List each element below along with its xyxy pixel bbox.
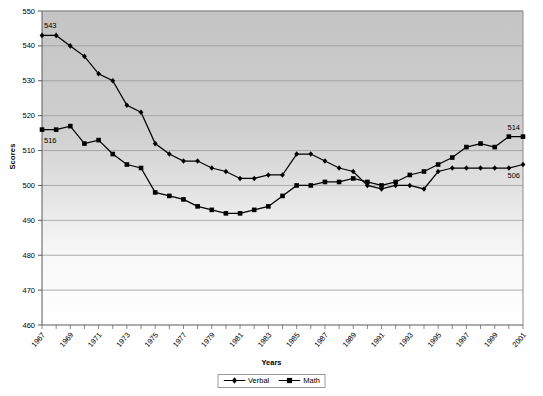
sat-scores-line-chart: 460470480490500510520530540550 196719691… xyxy=(0,0,543,396)
marker-square-math xyxy=(139,166,144,171)
x-tick-label: 1975 xyxy=(143,331,161,350)
x-tick-label: 1987 xyxy=(312,331,330,350)
legend-marker-square-icon xyxy=(278,376,300,385)
marker-square-math xyxy=(507,134,512,139)
marker-square-math xyxy=(422,169,427,174)
x-tick-label: 1999 xyxy=(482,331,500,350)
x-tick-label: 1989 xyxy=(341,331,359,350)
marker-square-math xyxy=(436,162,441,167)
marker-square-math xyxy=(96,138,101,143)
y-tick-label: 500 xyxy=(22,181,35,190)
x-tick-label: 1969 xyxy=(58,331,76,350)
chart-canvas: 460470480490500510520530540550 196719691… xyxy=(0,0,543,396)
marker-square-math xyxy=(323,180,328,185)
marker-square-math xyxy=(280,194,285,199)
marker-square-math xyxy=(408,173,413,178)
marker-square-math xyxy=(224,211,229,216)
x-tick-label: 1997 xyxy=(454,331,472,350)
marker-square-math xyxy=(365,180,370,185)
marker-square-math xyxy=(266,204,271,209)
x-tick-label: 1991 xyxy=(369,331,387,350)
marker-square-math xyxy=(492,145,497,150)
marker-square-math xyxy=(464,145,469,150)
marker-square-math xyxy=(308,183,313,188)
marker-square-math xyxy=(478,141,483,146)
x-tick-label: 1979 xyxy=(199,331,217,350)
marker-square-math xyxy=(393,180,398,185)
legend-item-math[interactable]: Math xyxy=(278,376,320,385)
marker-square-math xyxy=(68,124,73,129)
chart-legend: Verbal Math xyxy=(217,374,326,388)
marker-square-math xyxy=(195,204,200,209)
x-tick-label: 1995 xyxy=(426,331,444,350)
x-tick-label: 1993 xyxy=(397,331,415,350)
data-label-516: 516 xyxy=(44,136,57,145)
data-label-506: 506 xyxy=(507,171,520,180)
legend-item-verbal[interactable]: Verbal xyxy=(223,376,269,385)
marker-square-math xyxy=(167,194,172,199)
y-tick-label: 490 xyxy=(22,216,35,225)
legend-label-verbal: Verbal xyxy=(247,377,269,385)
legend-label-math: Math xyxy=(302,377,320,385)
x-tick-label: 2001 xyxy=(510,331,528,350)
x-tick-label: 1981 xyxy=(227,331,245,350)
data-label-543: 543 xyxy=(44,21,57,30)
marker-square-math xyxy=(209,208,214,213)
x-axis-ticks: 1967196919711973197519771979198119831985… xyxy=(29,325,528,349)
marker-square-math xyxy=(294,183,299,188)
marker-square-math xyxy=(181,197,186,202)
y-tick-label: 470 xyxy=(22,286,35,295)
marker-square-math xyxy=(521,134,526,139)
y-tick-label: 540 xyxy=(22,41,35,50)
marker-square-math xyxy=(379,183,384,188)
x-tick-label: 1967 xyxy=(29,331,47,350)
x-tick-label: 1973 xyxy=(114,331,132,350)
y-tick-label: 510 xyxy=(22,146,35,155)
y-tick-label: 550 xyxy=(22,7,35,16)
x-tick-label: 1985 xyxy=(284,331,302,350)
y-tick-label: 530 xyxy=(22,76,35,85)
data-label-514: 514 xyxy=(507,123,520,132)
marker-square-math xyxy=(82,141,87,146)
marker-square-math xyxy=(351,176,356,181)
y-tick-label: 520 xyxy=(22,111,35,120)
y-tick-label: 480 xyxy=(22,251,35,260)
marker-square-math xyxy=(238,211,243,216)
y-tick-label: 460 xyxy=(22,321,35,330)
marker-square-math xyxy=(153,190,158,195)
marker-square-math xyxy=(450,155,455,160)
x-tick-label: 1971 xyxy=(86,331,104,350)
marker-square-math xyxy=(110,152,115,157)
y-axis-title: Scores xyxy=(8,127,17,187)
marker-square-math xyxy=(252,208,257,213)
marker-square-math xyxy=(125,162,130,167)
marker-square-math xyxy=(40,127,45,132)
y-axis-ticks: 460470480490500510520530540550 xyxy=(22,7,42,330)
legend-marker-diamond-icon xyxy=(223,376,245,385)
x-axis-title: Years xyxy=(0,358,543,367)
marker-square-math xyxy=(54,127,59,132)
x-tick-label: 1977 xyxy=(171,331,189,350)
x-tick-label: 1983 xyxy=(256,331,274,350)
marker-square-math xyxy=(337,180,342,185)
